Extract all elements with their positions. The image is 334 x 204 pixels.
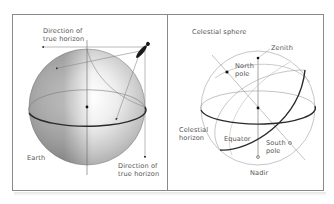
celestial-sphere-diagram bbox=[0, 0, 334, 204]
nadir-point bbox=[257, 156, 260, 159]
zenith-leader bbox=[258, 49, 270, 58]
label-equator: Equator bbox=[224, 135, 251, 143]
center-dot bbox=[257, 107, 260, 110]
figure: Direction of true horizon Earth Directio… bbox=[0, 0, 334, 204]
label-south-pole: South pole bbox=[266, 139, 286, 155]
label-celestial-sphere: Celestial sphere bbox=[192, 28, 246, 36]
label-zenith: Zenith bbox=[271, 44, 293, 52]
label-north-pole: North pole bbox=[235, 62, 254, 78]
label-celestial-horizon: Celestial horizon bbox=[179, 126, 208, 142]
south-pole-point bbox=[289, 142, 292, 145]
zenith-dot bbox=[257, 57, 260, 60]
label-nadir: Nadir bbox=[250, 169, 268, 177]
meridian-arc bbox=[215, 64, 310, 82]
north-pole-dot bbox=[225, 70, 228, 73]
